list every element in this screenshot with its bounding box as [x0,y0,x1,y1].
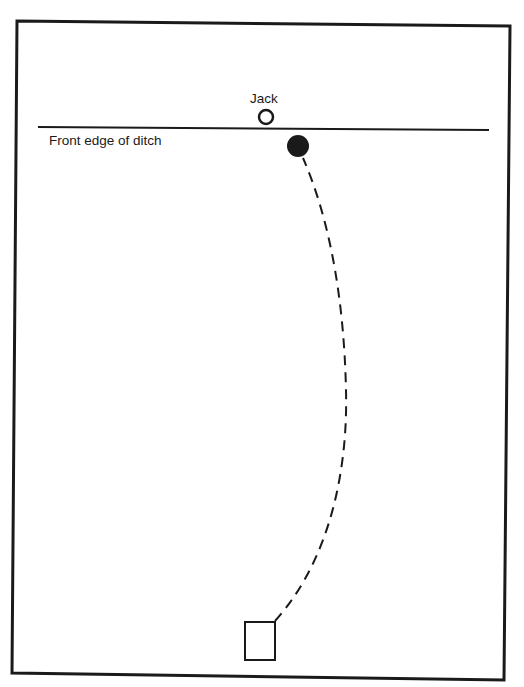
jack-label: Jack [250,91,278,106]
ditch-label: Front edge of ditch [49,133,162,148]
jack-icon [259,110,273,124]
ditch-edge-line [38,127,489,130]
bowl-icon [287,135,309,157]
bowls-diagram: Front edge of ditch Jack [0,0,524,687]
mat-rectangle [245,622,275,660]
delivery-path [275,158,346,621]
